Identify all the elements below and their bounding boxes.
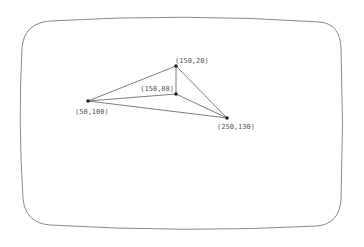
point-marker bbox=[86, 99, 90, 103]
point-marker bbox=[174, 92, 178, 96]
label-group: (150,20)(150,80)(50,100)(250,130) bbox=[75, 57, 255, 131]
edge-p1-p4 bbox=[176, 66, 227, 118]
edge-p3-p4 bbox=[88, 101, 227, 118]
point-label: (150,80) bbox=[140, 85, 174, 93]
edge-p3-p1 bbox=[88, 66, 176, 101]
edge-p2-p4 bbox=[176, 94, 227, 118]
diagram-frame bbox=[20, 17, 342, 229]
edge-p3-p2 bbox=[88, 94, 176, 101]
diagram-canvas: (150,20)(150,80)(50,100)(250,130) bbox=[0, 0, 364, 247]
point-marker bbox=[225, 116, 229, 120]
point-label: (250,130) bbox=[217, 123, 255, 131]
point-label: (50,100) bbox=[75, 108, 109, 116]
point-label: (150,20) bbox=[175, 57, 209, 65]
